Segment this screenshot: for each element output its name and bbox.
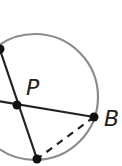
point-bottom: [33, 155, 42, 164]
label-p: P: [26, 75, 40, 100]
point-p: [13, 101, 22, 110]
circle: [0, 34, 98, 160]
point-b: [90, 113, 99, 122]
label-b: B: [104, 106, 119, 131]
point-top-left: [0, 45, 5, 54]
geometry-diagram: P B: [0, 0, 122, 166]
